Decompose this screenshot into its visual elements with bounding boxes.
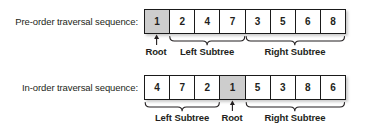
preorder-sequence-table: 1 2 4 7 3 5 6 8 — [144, 9, 346, 34]
inorder-left-subtree-brace-icon — [145, 103, 219, 112]
preorder-cell-3: 7 — [220, 10, 245, 33]
preorder-right-subtree-label: Right Subtree — [265, 46, 326, 57]
preorder-root-arrow-icon — [154, 35, 159, 46]
inorder-caption: In-order traversal sequence: — [0, 82, 138, 93]
preorder-right-subtree-brace-icon — [246, 37, 344, 46]
preorder-cell-2: 4 — [195, 10, 220, 33]
preorder-cell-6: 6 — [296, 10, 321, 33]
preorder-left-subtree-brace-icon — [170, 37, 245, 46]
inorder-sequence-table: 4 7 2 1 5 3 8 6 — [144, 75, 346, 100]
preorder-cell-7: 8 — [321, 10, 345, 33]
preorder-cell-5: 5 — [271, 10, 296, 33]
inorder-right-subtree-label: Right Subtree — [265, 112, 326, 123]
preorder-cell-4: 3 — [246, 10, 271, 33]
inorder-cell-2: 2 — [195, 76, 220, 99]
preorder-cell-0: 1 — [145, 10, 170, 33]
inorder-cell-5: 3 — [271, 76, 296, 99]
inorder-root-label: Root — [221, 112, 242, 123]
inorder-left-subtree-label: Left Subtree — [155, 112, 209, 123]
preorder-cell-1: 2 — [170, 10, 195, 33]
traversal-sequence-diagram: Pre-order traversal sequence: 1 2 4 7 3 … — [0, 0, 367, 135]
preorder-row: Pre-order traversal sequence: 1 2 4 7 3 … — [0, 0, 367, 62]
preorder-root-label: Root — [145, 46, 166, 57]
inorder-cell-0: 4 — [145, 76, 170, 99]
inorder-row: In-order traversal sequence: 4 7 2 1 5 3… — [0, 66, 367, 128]
inorder-root-arrow-icon — [230, 101, 235, 112]
inorder-cell-1: 7 — [170, 76, 195, 99]
preorder-left-subtree-label: Left Subtree — [180, 46, 234, 57]
inorder-cell-4: 5 — [246, 76, 271, 99]
inorder-cell-7: 6 — [321, 76, 345, 99]
inorder-cell-6: 8 — [296, 76, 321, 99]
inorder-cell-3: 1 — [220, 76, 245, 99]
preorder-caption: Pre-order traversal sequence: — [0, 16, 138, 27]
inorder-right-subtree-brace-icon — [246, 103, 344, 112]
